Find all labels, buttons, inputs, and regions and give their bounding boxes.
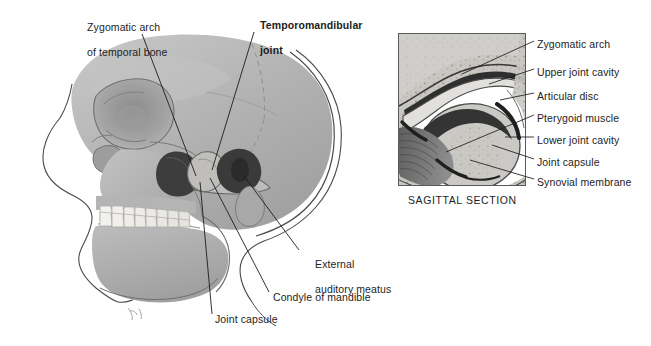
label-condyle-of-mandible: Condyle of mandible: [273, 291, 371, 304]
sagittal-section-artwork: [399, 34, 535, 196]
label-line-2: joint: [260, 44, 283, 56]
label-joint-capsule-left: Joint capsule: [215, 313, 278, 326]
artist-signature: [128, 308, 141, 320]
label-temporomandibular-joint: Temporomandibular joint: [248, 6, 363, 69]
label-pterygoid-muscle: Pterygoid muscle: [537, 112, 619, 125]
orbital-fossa-shadow: [118, 105, 146, 127]
condyle-trabecular-fill: [448, 126, 500, 178]
mandible-body: [92, 224, 228, 303]
label-line-1: Zygomatic arch: [87, 21, 160, 33]
lateral-skull-artwork: [43, 32, 341, 326]
label-joint-capsule: Joint capsule: [537, 156, 600, 169]
label-articular-disc: Articular disc: [537, 90, 599, 103]
sagittal-section-caption: SAGITTAL SECTION: [408, 194, 517, 206]
tmj-figure: Zygomatic arch of temporal bone Temporom…: [0, 0, 651, 346]
label-zygomatic-arch-of-temporal-bone: Zygomatic arch of temporal bone: [75, 8, 167, 71]
label-synovial-membrane: Synovial membrane: [537, 176, 632, 189]
label-zygomatic-arch: Zygomatic arch: [537, 38, 610, 51]
label-lower-joint-cavity: Lower joint cavity: [537, 134, 619, 147]
label-line-1: External: [315, 258, 354, 270]
label-upper-joint-cavity: Upper joint cavity: [537, 66, 619, 79]
label-line-1: Temporomandibular: [260, 19, 362, 31]
forehead-profile-outline: [60, 84, 72, 118]
label-line-2: of temporal bone: [87, 46, 167, 58]
